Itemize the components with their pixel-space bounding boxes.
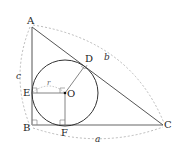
label-C: C	[164, 119, 172, 130]
label-O: O	[67, 88, 75, 99]
incircle-diagram: A B C D E F O c b a r	[0, 0, 182, 157]
label-F: F	[61, 127, 68, 138]
arc-b	[33, 25, 164, 123]
label-B: B	[23, 122, 30, 133]
label-side-a: a	[95, 134, 100, 144]
side-AC	[32, 27, 163, 125]
label-D: D	[85, 53, 93, 64]
center-point-O	[64, 92, 67, 95]
label-side-b: b	[104, 52, 110, 62]
label-A: A	[26, 15, 35, 26]
label-E: E	[23, 87, 30, 98]
arc-c	[20, 27, 30, 126]
right-angle-F	[60, 120, 65, 125]
right-angle-B	[32, 120, 37, 125]
label-side-c: c	[16, 71, 21, 81]
